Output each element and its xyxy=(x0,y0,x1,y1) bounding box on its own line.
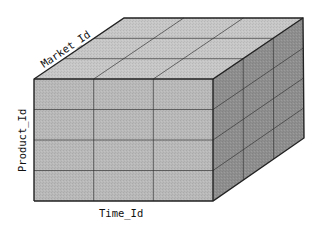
product-id-axis-label: Product_Id xyxy=(16,109,29,172)
data-cube-diagram: Market_Id Product_Id Time_Id xyxy=(0,0,323,226)
time-id-axis-label: Time_Id xyxy=(99,207,143,220)
cube-front-face xyxy=(34,79,213,201)
